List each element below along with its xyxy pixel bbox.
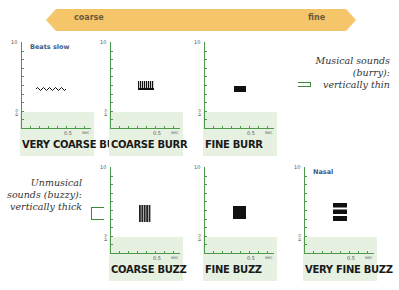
x-tick (75, 126, 76, 129)
note-line: vertically thick (2, 201, 82, 213)
spectrogram-panel: 10kHz0.5secBeats slowVERY COARSE BURR (14, 40, 94, 156)
y-tick (21, 51, 24, 52)
x-tick (331, 251, 332, 254)
y-tick (204, 94, 207, 95)
panel-title: COARSE BURR (111, 139, 187, 150)
x-unit-label: sec (171, 130, 179, 135)
y-tick (110, 102, 113, 103)
y-tick (21, 68, 24, 69)
y-tick (110, 51, 113, 52)
x-axis (110, 128, 180, 129)
x-tick-label: 0.5 (153, 255, 161, 261)
y-tick (110, 210, 113, 211)
y-tick (204, 184, 207, 185)
y-tick (21, 94, 24, 95)
y-tick (110, 227, 113, 228)
x-tick (340, 251, 341, 254)
x-tick-label: 0.5 (247, 255, 255, 261)
y-tick (304, 244, 307, 245)
y-max-label: 10 (294, 164, 300, 170)
y-tick (110, 119, 113, 120)
x-tick (146, 126, 147, 129)
thin-bracket-icon (298, 82, 311, 87)
x-tick (249, 126, 250, 129)
y-tick (204, 111, 207, 112)
x-tick (119, 251, 120, 254)
x-tick (155, 126, 156, 129)
y-tick (21, 102, 24, 103)
y-unit-label: kHz (297, 234, 302, 241)
y-tick (110, 85, 113, 86)
y-tick (110, 111, 113, 112)
y-tick (110, 59, 113, 60)
x-tick (128, 126, 129, 129)
thick-bracket-icon (91, 207, 104, 220)
y-tick (304, 193, 307, 194)
x-axis (204, 253, 274, 254)
y-unit-label: kHz (197, 234, 202, 241)
panel-subtitle: Beats slow (30, 43, 70, 51)
y-tick (304, 210, 307, 211)
y-max-label: 10 (194, 164, 200, 170)
note-line: sounds (buzzy): (2, 189, 82, 201)
note-line: Musical sounds (290, 55, 390, 67)
striped-block-glyph-icon (139, 205, 151, 222)
y-unit-label: kHz (197, 109, 202, 116)
x-tick (137, 126, 138, 129)
x-unit-label: sec (82, 130, 90, 135)
y-tick (204, 244, 207, 245)
x-tick (164, 251, 165, 254)
note-line: Unmusical (2, 177, 82, 189)
y-tick (304, 176, 307, 177)
y-tick (204, 119, 207, 120)
y-unit-label: kHz (103, 109, 108, 116)
x-unit-label: sec (265, 130, 273, 135)
x-tick-label: 0.5 (153, 130, 161, 136)
x-tick (222, 251, 223, 254)
y-tick (204, 85, 207, 86)
x-tick (322, 251, 323, 254)
y-tick (110, 94, 113, 95)
y-tick (110, 201, 113, 202)
x-tick (84, 126, 85, 129)
y-tick (204, 227, 207, 228)
y-tick (304, 227, 307, 228)
y-tick (204, 68, 207, 69)
x-tick (119, 126, 120, 129)
x-tick (267, 126, 268, 129)
x-axis (110, 253, 180, 254)
x-tick (231, 126, 232, 129)
x-tick (240, 126, 241, 129)
y-tick (204, 236, 207, 237)
spectrogram-panel: 10kHz0.5secCOARSE BUZZ (103, 165, 183, 281)
y-tick (110, 68, 113, 69)
panel-title: FINE BURR (205, 139, 263, 150)
x-tick (313, 251, 314, 254)
y-tick (204, 51, 207, 52)
x-tick-label: 0.5 (247, 130, 255, 136)
x-tick (258, 251, 259, 254)
y-tick (110, 176, 113, 177)
x-tick (173, 126, 174, 129)
y-max-label: 10 (194, 39, 200, 45)
x-unit-label: sec (365, 255, 373, 260)
y-max-label: 10 (100, 164, 106, 170)
y-tick (204, 193, 207, 194)
y-tick (304, 219, 307, 220)
coarse-label: coarse (74, 13, 104, 22)
y-tick (110, 236, 113, 237)
y-tick (21, 119, 24, 120)
horizontal-bands-glyph-icon (333, 203, 347, 221)
y-tick (204, 102, 207, 103)
solid-block-glyph-icon (233, 206, 246, 219)
spectrogram-panel: 10kHz0.5secFINE BURR (197, 40, 277, 156)
y-tick (204, 176, 207, 177)
y-tick (304, 236, 307, 237)
y-tick (204, 210, 207, 211)
y-tick (110, 193, 113, 194)
x-tick (267, 251, 268, 254)
unmusical-note: Unmusical sounds (buzzy): vertically thi… (2, 177, 82, 213)
x-tick (57, 126, 58, 129)
y-unit-label: kHz (14, 109, 19, 116)
y-tick (304, 201, 307, 202)
